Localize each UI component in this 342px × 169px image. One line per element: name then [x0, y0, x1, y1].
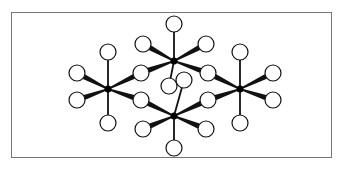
ligand-circle-C-top: [176, 72, 192, 88]
ligand-circle-C-bottom: [166, 140, 182, 156]
ligand-circle-C-lower-left: [135, 121, 151, 137]
bond-D-BD-shared: [214, 74, 240, 89]
bond-C-C-lower-left: [149, 115, 174, 128]
bond-A-A-upper-left: [83, 74, 109, 89]
ligand-circle-D-upper-right: [265, 65, 281, 81]
bond-A-AB-shared: [108, 74, 135, 90]
metal-center-A: [105, 86, 112, 93]
bond-B-AB-shared: [148, 60, 175, 72]
metal-center-C: [171, 113, 178, 120]
bond-D-D-upper-right: [240, 74, 267, 90]
bond-C-AC-shared: [147, 101, 174, 117]
ligand-circle-AC-shared: [133, 92, 149, 108]
ligand-circle-A-top: [100, 44, 116, 60]
ligand-circle-A-lower-left: [69, 92, 85, 108]
ligand-circle-BD-shared: [200, 65, 216, 81]
ligand-circle-D-top: [232, 44, 248, 60]
molecular-structure-diagram: [0, 0, 342, 169]
bond-B-BD-shared: [174, 60, 202, 73]
bond-B-B-upper-left: [149, 46, 175, 62]
bond-A-AC-shared: [108, 88, 135, 100]
metal-center-B: [171, 58, 178, 65]
ligand-circle-B-upper-left: [135, 36, 151, 52]
ligand-circle-A-bottom: [100, 115, 116, 131]
ligand-circle-B-bottom: [161, 78, 177, 94]
ligand-circle-D-bottom: [232, 115, 248, 131]
metal-center-D: [237, 86, 244, 93]
ligand-circle-CD-shared: [200, 92, 216, 108]
bond-C-C-lower-right: [174, 115, 200, 128]
ligand-circle-D-lower-right: [265, 92, 281, 108]
ligand-circle-C-lower-right: [198, 121, 214, 137]
ligand-circle-B-upper-right: [198, 36, 214, 52]
ligand-circle-B-top: [166, 16, 182, 32]
bond-B-B-upper-right: [174, 46, 201, 62]
ligand-circle-A-upper-left: [69, 65, 85, 81]
bond-D-D-lower-right: [240, 88, 267, 100]
bond-A-A-lower-left: [84, 88, 109, 100]
bond-D-CD-shared: [215, 88, 241, 100]
ligand-circle-AB-shared: [133, 65, 149, 81]
